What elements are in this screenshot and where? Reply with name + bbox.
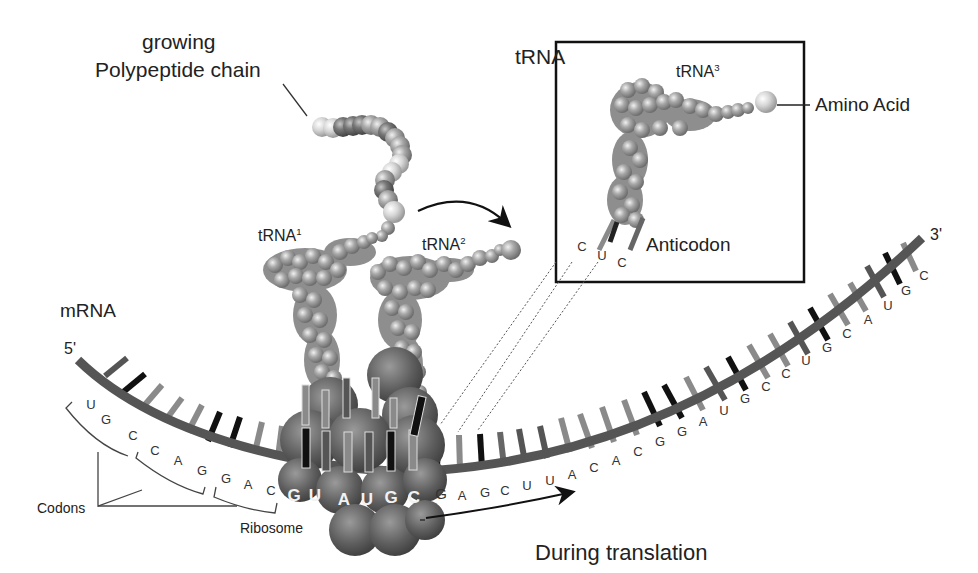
mrna-base: G bbox=[822, 340, 832, 355]
mrna-base: U bbox=[545, 473, 554, 488]
mrna-base: U bbox=[522, 478, 531, 493]
label-polypeptide-chain: Polypeptide chain bbox=[95, 58, 261, 82]
mrna-base: A bbox=[568, 467, 577, 482]
label-5-prime: 5' bbox=[64, 340, 76, 358]
mrna-base: C bbox=[128, 428, 137, 443]
mrna-base: C bbox=[842, 326, 851, 341]
mrna-base: U bbox=[86, 397, 95, 412]
label-anticodon: Anticodon bbox=[646, 234, 731, 256]
trna3-molecule bbox=[599, 78, 777, 250]
mrna-base: G bbox=[480, 485, 490, 500]
anticodon-base-3: C bbox=[617, 255, 626, 270]
mrna-base: A bbox=[244, 477, 253, 492]
anticodon-projection-lines bbox=[440, 262, 598, 432]
mrna-base: U bbox=[883, 298, 892, 313]
mrna-base-ribosome: G bbox=[287, 486, 300, 506]
mrna-base: G bbox=[740, 391, 750, 406]
mrna-base: C bbox=[633, 444, 642, 459]
mrna-base: C bbox=[589, 460, 598, 475]
translation-diagram: growing Polypeptide chain tRNA tRNA1 tRN… bbox=[0, 0, 978, 573]
label-ribosome: Ribosome bbox=[240, 520, 303, 536]
polypeptide-chain bbox=[312, 115, 412, 242]
trna1-text: tRNA bbox=[258, 227, 296, 244]
mrna-base: A bbox=[864, 312, 873, 327]
label-amino-acid: Amino Acid bbox=[815, 94, 910, 116]
label-trna-box-title: tRNA bbox=[515, 45, 565, 69]
mrna-base: G bbox=[435, 485, 447, 502]
label-trna3: tRNA3 bbox=[676, 63, 720, 81]
label-codons: Codons bbox=[37, 500, 85, 516]
ribosome bbox=[278, 347, 447, 556]
translation-direction-arrow bbox=[426, 493, 568, 518]
trna3-text: tRNA bbox=[676, 63, 714, 80]
trna3-superscript: 3 bbox=[714, 62, 719, 73]
mrna-base: U bbox=[801, 353, 810, 368]
mrna-base: G bbox=[655, 434, 665, 449]
mrna-base: A bbox=[174, 453, 183, 468]
mrna-base-ribosome: U bbox=[309, 486, 321, 506]
mrna-base: C bbox=[500, 483, 509, 498]
polypeptide-leader-line bbox=[283, 84, 307, 116]
mrna-base: C bbox=[919, 268, 928, 283]
mrna-base-ribosome: A bbox=[338, 490, 350, 510]
mrna-base-ribosome: U bbox=[361, 490, 373, 510]
trna2-text: tRNA bbox=[422, 236, 460, 253]
label-during-translation: During translation bbox=[535, 540, 707, 566]
label-growing: growing bbox=[142, 30, 216, 54]
mrna-base: A bbox=[458, 488, 467, 503]
label-mrna: mRNA bbox=[60, 300, 116, 322]
mrna-base: U bbox=[719, 403, 728, 418]
mrna-base-ribosome: G bbox=[384, 488, 397, 508]
label-trna2: tRNA2 bbox=[422, 236, 466, 254]
mrna-base-ribosome: C bbox=[408, 488, 420, 508]
anticodon-base-2: U bbox=[597, 248, 606, 263]
mrna-base: G bbox=[197, 463, 207, 478]
trna1-molecule bbox=[263, 232, 378, 397]
mrna-base: C bbox=[781, 366, 790, 381]
trna2-superscript: 2 bbox=[460, 235, 465, 246]
label-3-prime: 3' bbox=[930, 226, 942, 244]
trna1-superscript: 1 bbox=[296, 226, 301, 237]
mrna-base: G bbox=[101, 412, 111, 427]
mrna-base: C bbox=[266, 483, 275, 498]
mrna-base: G bbox=[677, 424, 687, 439]
mrna-base-ticks bbox=[105, 243, 916, 470]
anticodon-base-1: C bbox=[577, 239, 586, 254]
label-trna1: tRNA1 bbox=[258, 227, 302, 245]
mrna-base: C bbox=[150, 443, 159, 458]
mrna-base: A bbox=[699, 414, 708, 429]
transfer-arrow bbox=[418, 202, 505, 222]
mrna-base: A bbox=[612, 453, 621, 468]
mrna-base: G bbox=[221, 471, 231, 486]
mrna-base: C bbox=[761, 379, 770, 394]
mrna-base: G bbox=[901, 283, 911, 298]
